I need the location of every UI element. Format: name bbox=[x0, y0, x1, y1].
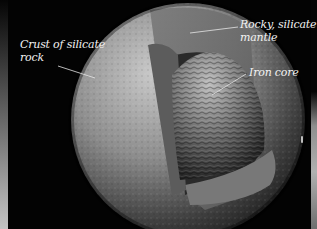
crust-label-line-2: rock bbox=[20, 51, 110, 64]
mantle-label-line-1: Rocky, silicate bbox=[240, 18, 317, 31]
mantle-label-line-2: mantle bbox=[240, 31, 317, 44]
core-label: Iron core bbox=[249, 66, 317, 79]
mantle-label: Rocky, silicate mantle bbox=[240, 18, 317, 44]
core-label-line-1: Iron core bbox=[249, 66, 317, 79]
crust-label-line-1: Crust of silicate bbox=[20, 38, 110, 51]
planet-interior-illustration: Crust of silicate rock Rocky, silicate m… bbox=[0, 0, 317, 229]
crust-label: Crust of silicate rock bbox=[20, 38, 110, 64]
edge-speck bbox=[301, 136, 303, 143]
